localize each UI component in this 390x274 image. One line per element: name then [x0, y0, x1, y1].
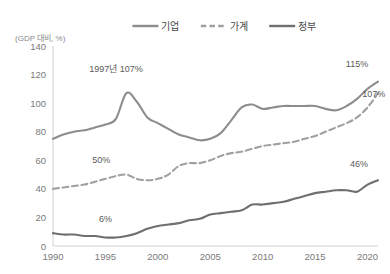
- annotation-household-end: 107%: [362, 89, 385, 99]
- x-axis-tick-label: 2010: [252, 251, 273, 262]
- x-axis-tick-label: 2000: [147, 251, 168, 262]
- legend-label-정부[interactable]: 정부: [298, 21, 316, 32]
- x-axis-ticks: 1990199520002005201020152020: [42, 251, 378, 262]
- annotation-household-mid: 50%: [92, 155, 110, 165]
- x-axis-tick-label: 1995: [95, 251, 116, 262]
- y-axis-tick-label: 20: [35, 212, 46, 223]
- y-axis-tick-label: 60: [35, 155, 46, 166]
- series-line-1: [53, 93, 378, 189]
- y-axis-tick-label: 120: [30, 69, 46, 80]
- y-axis-tick-label: 0: [41, 241, 46, 252]
- y-axis-tick-label: 140: [30, 41, 46, 52]
- annotation-corp-end: 115%: [346, 59, 368, 69]
- legend-label-기업[interactable]: 기업: [161, 20, 179, 32]
- x-axis-tick-label: 1990: [42, 251, 63, 262]
- y-axis-ticks: 020406080100120140: [30, 41, 46, 252]
- y-axis-tick-label: 80: [35, 126, 46, 137]
- annotation-corp-peak: 1997년 107%: [89, 64, 143, 74]
- y-axis-tick-label: 40: [35, 183, 46, 194]
- y-axis-tick-label: 100: [30, 98, 46, 109]
- series-line-2: [53, 180, 378, 237]
- chart-legend: 기업가계정부: [132, 20, 316, 32]
- legend-label-가계[interactable]: 가계: [230, 21, 248, 32]
- x-axis-tick-label: 2005: [200, 251, 221, 262]
- gdp-debt-line-chart: 기업가계정부 (GDP 대비, %) 020406080100120140 19…: [0, 0, 390, 274]
- chart-container: 기업가계정부 (GDP 대비, %) 020406080100120140 19…: [0, 0, 390, 274]
- x-axis-tick-label: 2020: [357, 251, 378, 262]
- annotation-gov-low: 6%: [99, 214, 112, 224]
- series-line-0: [53, 82, 378, 141]
- x-axis-tick-label: 2015: [305, 251, 326, 262]
- annotation-gov-end: 46%: [350, 159, 368, 169]
- chart-annotations: 1997년 107%50%6%115%107%46%: [89, 59, 385, 223]
